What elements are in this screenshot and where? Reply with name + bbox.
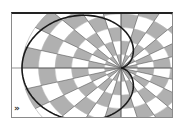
grid-cell	[129, 45, 144, 59]
grid-cell	[92, 49, 109, 61]
grid-cell	[100, 14, 121, 16]
expand-chevron-icon[interactable]: »	[14, 103, 20, 113]
grid-cell	[80, 115, 104, 118]
grid-cell	[25, 86, 49, 109]
grid-cell	[98, 78, 113, 92]
grid-cell	[146, 21, 168, 39]
grid-cell	[57, 79, 78, 96]
grid-cell	[88, 61, 105, 68]
diagram-frame	[11, 12, 173, 118]
grid-cell	[121, 41, 130, 55]
grid-cell	[162, 14, 173, 20]
grid-cell	[133, 75, 150, 87]
grid-cell	[169, 68, 173, 82]
grid-cell	[51, 116, 80, 118]
polar-checkerboard	[22, 14, 173, 118]
grid-cell	[121, 14, 138, 29]
grid-cell	[64, 30, 86, 48]
grid-cell	[137, 68, 154, 75]
polar-diagram	[12, 14, 173, 118]
grid-cell	[74, 97, 96, 115]
grid-cell	[55, 54, 73, 68]
grid-cell	[50, 95, 75, 116]
grid-cell	[112, 81, 121, 95]
